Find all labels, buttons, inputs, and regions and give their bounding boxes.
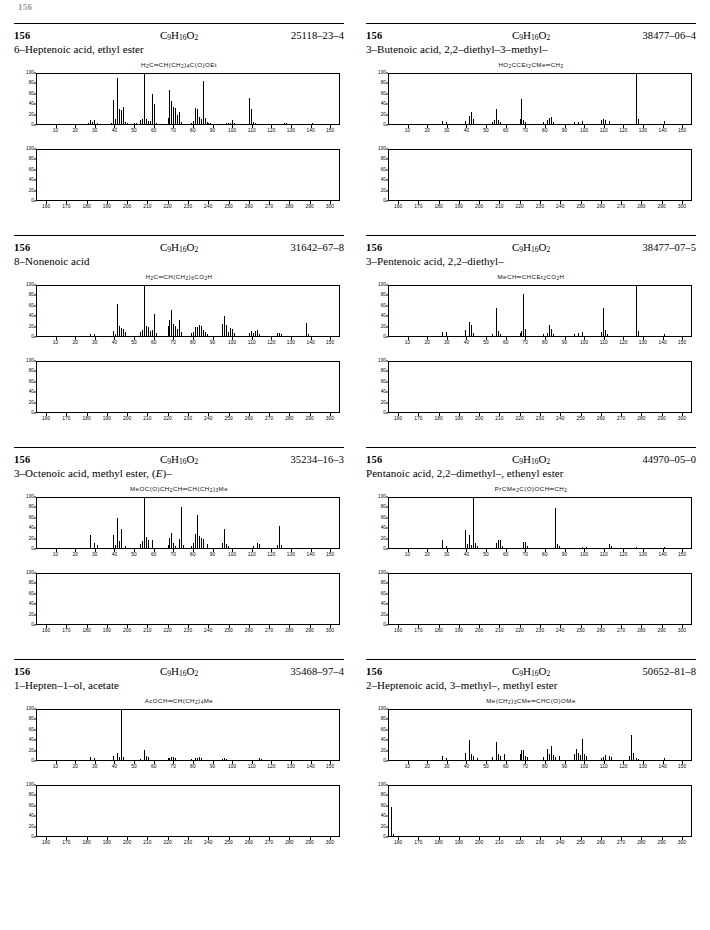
molecular-formula: C9H16O2 — [160, 240, 198, 257]
spectrum-bar — [633, 753, 634, 761]
plot-area — [388, 285, 692, 337]
spectrum-bar — [207, 122, 208, 125]
molecular-formula: C9H16O2 — [512, 664, 550, 681]
spectrum-bar — [549, 118, 550, 125]
spectrum-bar — [553, 122, 554, 124]
bar-series — [389, 498, 691, 548]
spectrum-entry: 156C9H16O250652–81–82–Heptenoic acid, 3–… — [366, 656, 696, 868]
spectrum-bar — [232, 329, 233, 336]
spectrum-bar — [191, 123, 192, 125]
x-tick-label: 270 — [617, 416, 625, 421]
x-tick-label: 260 — [245, 840, 253, 845]
y-axis: 020406080100 — [366, 149, 388, 201]
spectrum-panel-low-mass: 0204060801001020304050607080901001101201… — [366, 283, 696, 353]
x-tick-label: 170 — [414, 204, 422, 209]
entry-header: 156C9H16O231642–67–8 — [14, 240, 344, 255]
x-tick-label: 170 — [414, 840, 422, 845]
spectrum-bar — [492, 122, 493, 125]
spectrum-bar — [500, 122, 501, 124]
spectrum-bar — [193, 543, 194, 549]
x-tick-label: 200 — [475, 840, 483, 845]
entry-divider — [366, 659, 696, 660]
spectrum-bar — [582, 332, 583, 336]
x-tick-label: 10 — [405, 764, 411, 769]
spectrum-bar — [94, 120, 95, 125]
plot-area — [388, 709, 692, 761]
spectrum-bar — [500, 334, 501, 337]
y-axis: 020406080100 — [14, 73, 36, 125]
spectrum-bar — [473, 756, 474, 761]
x-tick-label: 200 — [123, 416, 131, 421]
x-tick-label: 270 — [617, 628, 625, 633]
x-tick-label: 30 — [92, 552, 98, 557]
spectrum-bar — [465, 121, 466, 124]
x-tick-label: 180 — [435, 840, 443, 845]
spectrum-bar — [152, 540, 153, 548]
spectrum-bar — [140, 759, 141, 761]
spectrum-bar — [496, 308, 497, 337]
x-tick-label: 60 — [151, 128, 157, 133]
spectrum-panel-low-mass: 0204060801001020304050607080901001101201… — [14, 71, 344, 141]
x-tick-label: 190 — [455, 840, 463, 845]
spectrum-bar — [119, 757, 120, 761]
spectrum-bar — [148, 327, 149, 337]
x-tick-label: 250 — [576, 204, 584, 209]
x-tick-label: 100 — [228, 552, 236, 557]
x-tick-label: 160 — [42, 840, 50, 845]
spectrum-bar — [638, 331, 639, 336]
spectrum-bar — [551, 117, 552, 124]
molecular-formula: C9H16O2 — [160, 452, 198, 469]
molecular-formula: C9H16O2 — [512, 240, 550, 257]
x-tick-label: 150 — [678, 764, 686, 769]
x-tick-label: 50 — [483, 340, 489, 345]
spectrum-bar — [222, 543, 223, 548]
x-tick-label: 160 — [394, 204, 402, 209]
entry-header: 156C9H16O225118–23–4 — [14, 28, 344, 43]
x-tick-label: 30 — [92, 128, 98, 133]
spectrum-bar — [473, 498, 474, 548]
spectrum-bar — [520, 119, 521, 124]
spectrum-bar — [253, 122, 254, 124]
y-axis: 020406080100 — [14, 709, 36, 761]
spectrum-bar — [605, 120, 606, 125]
spectrum-bar — [527, 546, 528, 548]
bar-series — [389, 786, 691, 836]
x-tick-label: 230 — [184, 416, 192, 421]
spectrum-bar — [636, 758, 637, 760]
spectrum-bar — [496, 109, 497, 124]
spectrum-bar — [94, 334, 95, 336]
spectrum-bar — [477, 758, 478, 761]
x-tick-label: 210 — [143, 840, 151, 845]
entry-divider — [366, 23, 696, 24]
spectrum-bar — [193, 121, 194, 125]
x-tick-label: 130 — [639, 340, 647, 345]
spectrum-bar — [90, 120, 91, 124]
spectrum-bar — [97, 545, 98, 548]
x-tick-label: 60 — [503, 552, 509, 557]
x-tick-label: 90 — [562, 340, 568, 345]
x-tick-label: 230 — [536, 204, 544, 209]
spectrum-bar — [183, 545, 184, 549]
x-tick-label: 150 — [326, 340, 334, 345]
spectrum-bar — [199, 117, 200, 125]
spectrum-bar — [115, 334, 116, 336]
entries-grid: 156C9H16O225118–23–46–Heptenoic acid, et… — [14, 20, 696, 868]
x-tick-label: 20 — [424, 552, 430, 557]
x-tick-label: 80 — [190, 128, 196, 133]
x-tick-label: 220 — [164, 416, 172, 421]
x-tick-label: 280 — [285, 204, 293, 209]
x-tick-label: 180 — [435, 204, 443, 209]
spectrum-bar — [88, 123, 89, 124]
spectrum-bar — [251, 331, 252, 336]
spectrum-bar — [502, 546, 503, 549]
x-axis: 1601701801902002102202302402502602702802… — [36, 413, 340, 427]
spectrum-bar — [169, 320, 170, 337]
spectrum-bar — [525, 329, 526, 336]
plot-area — [36, 285, 340, 337]
spectrum-bar — [498, 331, 499, 337]
x-tick-label: 160 — [394, 416, 402, 421]
spectrum-bar — [281, 334, 282, 337]
x-tick-label: 230 — [536, 628, 544, 633]
spectrum-bar — [471, 545, 472, 548]
x-tick-label: 150 — [326, 552, 334, 557]
